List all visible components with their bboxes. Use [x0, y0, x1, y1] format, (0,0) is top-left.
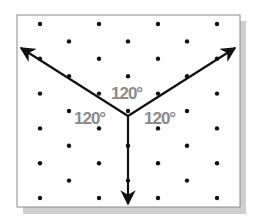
grid-dot	[126, 74, 130, 78]
angle-label-top: 120°	[111, 84, 143, 103]
grid-dot	[67, 178, 71, 182]
grid-dot	[185, 144, 189, 148]
grid-dot	[185, 39, 189, 43]
grid-dot	[215, 161, 219, 165]
grid-dot	[97, 161, 101, 165]
grid-dot	[215, 126, 219, 130]
grid-dot	[38, 91, 42, 95]
grid-dot	[38, 22, 42, 26]
grid-dot	[215, 22, 219, 26]
grid-dot	[67, 39, 71, 43]
grid-dot	[67, 109, 71, 113]
grid-dot	[38, 196, 42, 200]
grid-dot	[97, 22, 101, 26]
grid-dot	[215, 91, 219, 95]
grid-dot	[185, 109, 189, 113]
grid-dot	[38, 161, 42, 165]
grid-dot	[126, 109, 130, 113]
grid-dot	[38, 126, 42, 130]
angle-label-right: 120°	[144, 109, 176, 128]
angle-diagram: 120° 120° 120°	[0, 0, 254, 221]
grid-dot	[97, 57, 101, 61]
grid-dot	[156, 196, 160, 200]
grid-dot	[97, 196, 101, 200]
grid-dot	[215, 196, 219, 200]
grid-dot	[156, 57, 160, 61]
grid-dot	[126, 39, 130, 43]
grid-dot	[156, 161, 160, 165]
grid-dot	[185, 178, 189, 182]
grid-dot	[156, 22, 160, 26]
angle-label-left: 120°	[74, 109, 106, 128]
grid-dot	[67, 144, 71, 148]
grid-dot	[97, 91, 101, 95]
